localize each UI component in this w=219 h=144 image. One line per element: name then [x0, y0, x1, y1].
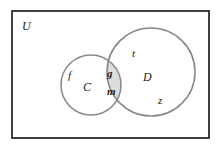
element-m-label: m	[107, 85, 116, 97]
element-g-label: g	[106, 67, 113, 79]
venn-diagram: U f C g m t D z	[0, 0, 219, 144]
set-d-label: D	[142, 70, 152, 84]
universe-label: U	[22, 19, 32, 33]
element-z-label: z	[157, 94, 163, 106]
set-c-label: C	[83, 80, 92, 94]
